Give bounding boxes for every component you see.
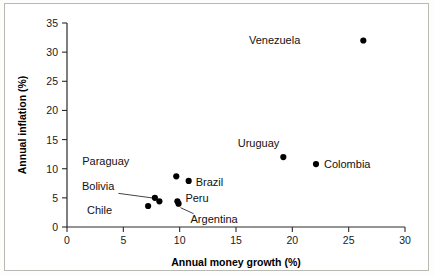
datapoint-unlabeled-9: [152, 195, 158, 201]
point-label-brazil: Brazil: [196, 176, 224, 188]
x-tick-label-30: 30: [399, 234, 411, 246]
datapoint-brazil: [186, 178, 192, 184]
point-label-argentina: Argentina: [191, 213, 239, 225]
x-tick-label-20: 20: [286, 234, 298, 246]
leader-line-argentina: [181, 208, 194, 214]
y-tick-label-0: 0: [52, 221, 58, 233]
scatter-plot: 05101520253005101520253035Annual money g…: [0, 0, 434, 276]
y-tick-label-30: 30: [46, 46, 58, 58]
x-tick-label-0: 0: [64, 234, 70, 246]
datapoint-argentina: [175, 201, 181, 207]
leader-line-bolivia: [118, 193, 155, 198]
x-axis-title: Annual money growth (%): [171, 256, 301, 268]
x-tick-label-10: 10: [174, 234, 186, 246]
point-label-peru: Peru: [185, 192, 208, 204]
chart-figure: 05101520253005101520253035Annual money g…: [0, 0, 434, 276]
datapoint-chile: [145, 203, 151, 209]
point-label-paraguay: Paraguay: [82, 155, 130, 167]
point-label-uruguay: Uruguay: [238, 137, 280, 149]
x-tick-label-25: 25: [343, 234, 355, 246]
x-tick-label-5: 5: [120, 234, 126, 246]
y-tick-label-10: 10: [46, 163, 58, 175]
y-tick-label-25: 25: [46, 75, 58, 87]
point-label-colombia: Colombia: [324, 158, 371, 170]
datapoint-paraguay: [173, 173, 179, 179]
point-label-chile: Chile: [87, 204, 112, 216]
y-tick-label-20: 20: [46, 104, 58, 116]
y-tick-label-35: 35: [46, 17, 58, 29]
point-label-bolivia: Bolivia: [82, 180, 115, 192]
datapoint-venezuela: [360, 37, 366, 43]
datapoint-uruguay: [280, 154, 286, 160]
y-tick-label-15: 15: [46, 134, 58, 146]
axis-lines: [67, 23, 405, 227]
x-tick-label-15: 15: [230, 234, 242, 246]
datapoint-colombia: [313, 161, 319, 167]
y-axis-title: Annual inflation (%): [16, 76, 28, 175]
point-label-venezuela: Venezuela: [249, 34, 301, 46]
y-tick-label-5: 5: [52, 192, 58, 204]
